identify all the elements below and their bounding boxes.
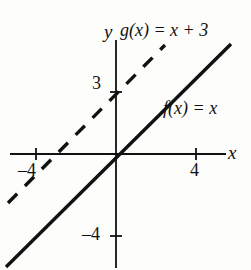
function-label-f: f(x) = x <box>163 99 217 117</box>
x-tick-label-4: 4 <box>190 161 199 179</box>
x-tick-label-neg4: –4 <box>18 161 36 179</box>
x-axis-label: x <box>228 143 236 162</box>
graph-figure: y x g(x) = x + 3 f(x) = x –4 4 3 –4 <box>0 0 251 270</box>
y-tick-label-neg4: –4 <box>82 225 100 243</box>
y-tick-label-3: 3 <box>92 74 101 92</box>
function-line-f <box>6 44 231 267</box>
y-axis-label: y <box>104 22 112 41</box>
coordinate-plane <box>0 0 251 270</box>
function-label-g: g(x) = x + 3 <box>120 21 208 39</box>
